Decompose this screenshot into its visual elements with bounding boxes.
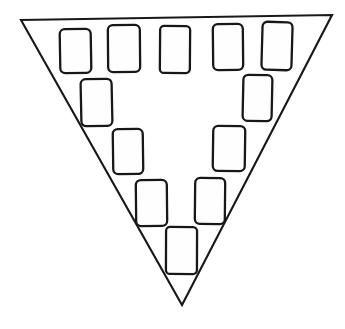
- block-6: [81, 79, 113, 127]
- block-10: [136, 180, 167, 226]
- block-1: [60, 29, 92, 74]
- block-7: [243, 75, 273, 122]
- figure-canvas: [0, 0, 345, 329]
- block-8: [113, 129, 144, 174]
- block-5: [261, 22, 292, 71]
- block-12: [166, 227, 197, 274]
- inverted-triangle-diagram: [0, 0, 345, 329]
- block-4: [213, 24, 243, 70]
- block-2: [108, 25, 140, 72]
- block-9: [213, 126, 246, 171]
- block-11: [195, 178, 225, 224]
- block-3: [160, 26, 190, 73]
